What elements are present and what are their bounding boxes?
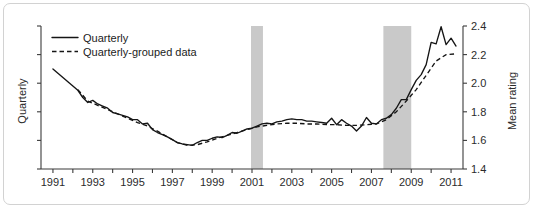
x-tick-label: 2009 — [399, 176, 423, 188]
legend-label-quarterly: Quarterly — [83, 32, 129, 44]
bottom-axis — [41, 169, 463, 173]
x-tick-label: 2011 — [439, 176, 463, 188]
chart-canvas: 1991199319951997199920012003200520072009… — [4, 4, 531, 206]
x-tick-label: 1991 — [41, 176, 65, 188]
x-tick-label: 1995 — [120, 176, 144, 188]
y-tick-label: 2.0 — [471, 77, 486, 89]
recession-bands — [251, 26, 411, 169]
x-tick-label: 1997 — [160, 176, 184, 188]
y-tick-label: 1.8 — [471, 106, 486, 118]
y-tick-label: 2.4 — [471, 20, 486, 32]
x-tick-label: 1993 — [81, 176, 105, 188]
y-tick-label: 1.4 — [471, 163, 486, 175]
right-axis — [463, 26, 467, 169]
figure-frame: 1991199319951997199920012003200520072009… — [3, 3, 530, 205]
left-axis — [37, 26, 41, 169]
x-tick-label: 2003 — [280, 176, 304, 188]
x-tick-label: 2007 — [359, 176, 383, 188]
y-axis-left-title: Quarterly — [16, 78, 28, 124]
x-axis-tick-labels: 1991199319951997199920012003200520072009… — [41, 176, 463, 188]
x-tick-label: 1999 — [200, 176, 224, 188]
y-tick-label: 1.6 — [471, 134, 486, 146]
legend-label-quarterly-grouped: Quarterly-grouped data — [83, 46, 198, 58]
x-tick-label: 2005 — [319, 176, 343, 188]
y-axis-right-title: Mean rating — [506, 72, 518, 130]
recession-band-2001 — [251, 26, 263, 169]
y-axis-tick-labels: 1.41.61.82.02.22.4 — [471, 20, 486, 175]
x-tick-label: 2001 — [240, 176, 264, 188]
chart-legend: Quarterly Quarterly-grouped data — [52, 32, 198, 58]
y-tick-label: 2.2 — [471, 49, 486, 61]
